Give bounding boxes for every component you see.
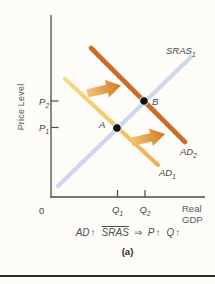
shift-arrow-upper [85, 77, 123, 102]
adas-graph-canvas [0, 0, 215, 284]
shift-arrow-lower [129, 125, 167, 150]
caption-p: P [148, 227, 155, 238]
caption-q: Q [167, 227, 175, 238]
y-axis-title: Price Level [16, 84, 26, 131]
panel-label: (a) [40, 246, 215, 257]
x-axis-title-line1: Real [182, 203, 202, 214]
up-arrow-icon: ↑ [91, 227, 96, 238]
sras1-label: SRAS1 [166, 45, 195, 60]
figure-panel: Price Level Real GDP P2 P1 0 Q1 Q2 SRAS1… [0, 0, 215, 284]
up-arrow-icon: ↑ [156, 227, 161, 238]
y-tick-label-p1: P1 [35, 122, 49, 137]
caption-formula: AD↑SRAS⇒P↑Q↑ [40, 227, 215, 238]
point-b-dot [140, 97, 149, 106]
point-b-label: B [152, 96, 158, 107]
x-tick-label-q2: Q2 [135, 204, 155, 219]
x-axis-title: Real GDP [182, 203, 203, 225]
point-a-label: A [99, 119, 105, 130]
up-arrow-icon: ↑ [175, 227, 180, 238]
ad1-label: AD1 [159, 167, 176, 182]
x-tick-label-q1: Q1 [108, 204, 128, 219]
implies-arrow-icon: ⇒ [134, 227, 142, 238]
point-a-dot [113, 124, 122, 133]
caption-sras-overline: SRAS [102, 227, 129, 238]
x-axis-title-line2: GDP [182, 214, 203, 225]
y-tick-label-p2: P2 [35, 96, 49, 111]
origin-label: 0 [39, 205, 44, 216]
ad2-label: AD2 [180, 146, 197, 161]
caption-ad: AD [76, 227, 90, 238]
